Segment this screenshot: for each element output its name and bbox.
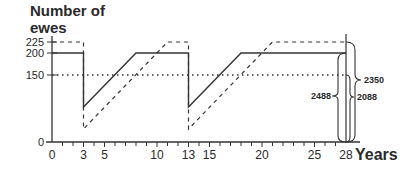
x-axis-label: Years — [355, 146, 398, 163]
x-tick-3: 3 — [80, 148, 87, 162]
series-dashed-line — [52, 42, 346, 129]
x-tick-13: 13 — [182, 148, 196, 162]
x-minor-ticks — [63, 142, 336, 147]
x-tick-15: 15 — [203, 148, 217, 162]
y-axis-label-line2: ewes — [30, 19, 67, 36]
x-tick-20: 20 — [255, 148, 269, 162]
x-tick-0: 0 — [49, 148, 56, 162]
annotation-2488: 2488 — [311, 91, 331, 101]
x-tick-10: 10 — [150, 148, 164, 162]
y-tick-150: 150 — [26, 69, 44, 81]
series-solid-line — [52, 53, 346, 107]
ewe-population-chart: Number of ewes 225 200 150 0 — [0, 0, 415, 173]
x-tick-labels: 0 3 5 10 13 15 20 25 28 Years — [49, 146, 398, 163]
x-tick-5: 5 — [101, 148, 108, 162]
y-axis-label-line1: Number of — [30, 2, 106, 19]
y-tick-200: 200 — [26, 47, 44, 59]
x-tick-25: 25 — [308, 148, 322, 162]
x-tick-28: 28 — [339, 148, 353, 162]
annotation-2350: 2350 — [364, 75, 384, 85]
annotation-2088: 2088 — [357, 92, 377, 102]
y-tick-0: 0 — [38, 136, 44, 148]
